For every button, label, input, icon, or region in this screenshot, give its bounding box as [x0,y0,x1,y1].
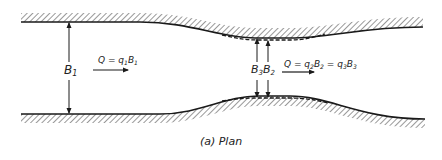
upstream-flow-label: Q = q1B1 [98,55,138,66]
channel-plan-diagram: B1 Q = q1B1 B3 B2 Q = q2B2 = q3B3 (a) Pl… [0,0,442,160]
b1-label: B1 [64,63,77,78]
b2-label: B2 [263,63,276,77]
figure-caption: (a) Plan [200,135,242,148]
b3-label: B3 [251,63,263,77]
constriction-flow-label: Q = q2B2 = q3B3 [284,59,357,70]
